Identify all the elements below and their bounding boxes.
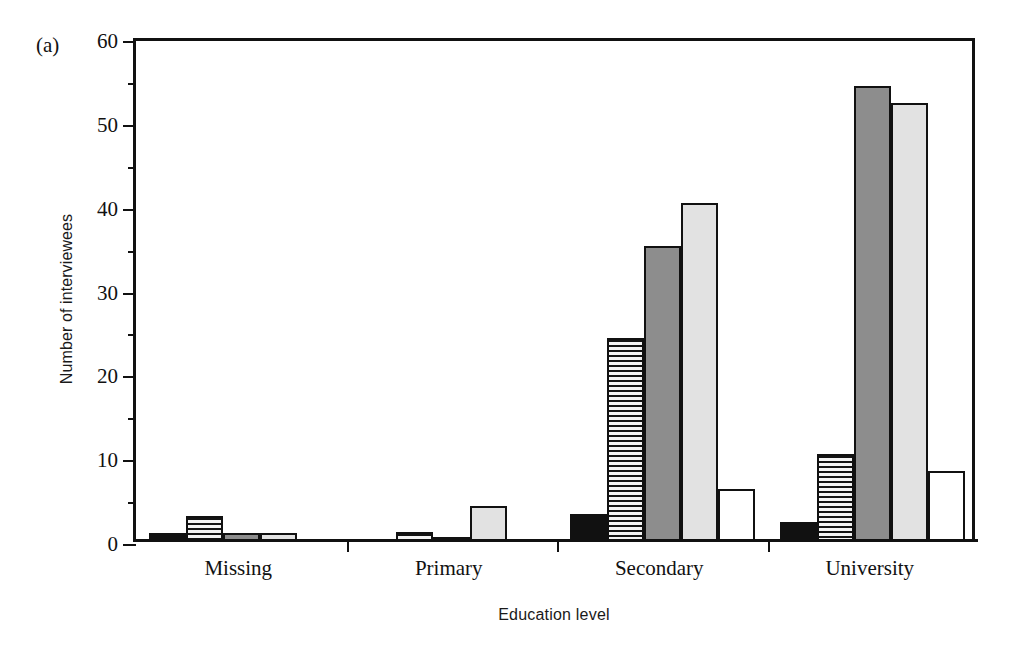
- y-tick-minor: [128, 251, 136, 253]
- y-tick-label: 20: [97, 364, 118, 389]
- bar-university-series-2: [817, 454, 854, 541]
- bar-university-series-3: [854, 86, 891, 541]
- y-tick-minor: [128, 418, 136, 420]
- x-tick: [768, 541, 770, 552]
- bar-primary-series-4: [470, 506, 507, 541]
- x-axis-title: Education level: [133, 606, 975, 624]
- chart-figure: (a) Number of interviewees Education lev…: [0, 0, 1019, 660]
- bar-secondary-series-1: [570, 514, 607, 541]
- bar-university-series-4: [891, 103, 928, 541]
- bar-university-series-5: [928, 471, 965, 541]
- x-category-label-secondary: Secondary: [615, 556, 704, 581]
- y-tick-major: [123, 209, 136, 211]
- plot-area: 0102030405060: [133, 38, 975, 541]
- y-tick-minor: [128, 83, 136, 85]
- y-tick-minor: [128, 334, 136, 336]
- y-tick-major: [123, 376, 136, 378]
- y-tick-major: [123, 125, 136, 127]
- x-category-label-missing: Missing: [204, 556, 272, 581]
- x-category-label-primary: Primary: [415, 556, 483, 581]
- y-tick-label: 50: [97, 112, 118, 137]
- y-tick-minor: [128, 167, 136, 169]
- y-tick-label: 40: [97, 196, 118, 221]
- panel-label: (a): [36, 33, 59, 58]
- y-tick-major: [123, 544, 136, 546]
- x-tick: [347, 541, 349, 552]
- x-category-label-university: University: [825, 556, 914, 581]
- y-tick-minor: [128, 502, 136, 504]
- bar-secondary-series-4: [681, 203, 718, 541]
- y-tick-major: [123, 460, 136, 462]
- y-tick-major: [123, 293, 136, 295]
- y-tick-label: 60: [97, 29, 118, 54]
- y-tick-label: 10: [97, 448, 118, 473]
- y-tick-label: 0: [108, 532, 119, 557]
- bar-missing-series-2: [186, 516, 223, 541]
- bar-secondary-series-3: [644, 246, 681, 541]
- bar-secondary-series-2: [607, 338, 644, 541]
- y-axis-title: Number of interviewees: [58, 169, 76, 429]
- y-tick-major: [123, 41, 136, 43]
- x-tick: [557, 541, 559, 552]
- y-tick-label: 30: [97, 280, 118, 305]
- bar-secondary-series-5: [718, 489, 755, 541]
- x-axis-line: [133, 539, 978, 542]
